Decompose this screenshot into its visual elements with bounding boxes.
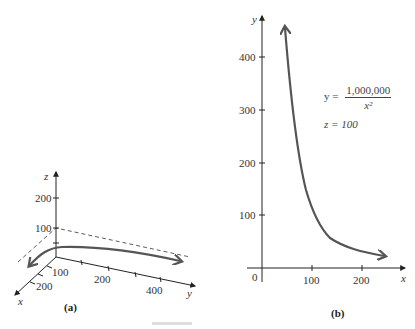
x-axis-label-3d: x <box>18 296 23 307</box>
x-axis-label: x <box>401 273 406 284</box>
caption-b: (b) <box>331 307 344 319</box>
x-tick-200: 200 <box>36 281 53 292</box>
curve-hyperbola <box>285 28 384 256</box>
equation-fraction: 1,000,000 x² <box>345 84 391 111</box>
y-tick-400: 400 <box>146 285 163 296</box>
y-tick-200-b: 200 <box>239 158 256 169</box>
equation-denominator: x² <box>345 98 391 111</box>
y-axis-3d <box>56 257 195 286</box>
caption-a: (a) <box>64 301 77 313</box>
y-tick-200: 200 <box>94 274 111 285</box>
x-tick-200-b: 200 <box>353 275 370 286</box>
origin-label: 0 <box>252 272 258 283</box>
y-tick-100-b: 100 <box>239 210 256 221</box>
z-axis-label: z <box>44 171 48 182</box>
y-axis-label: y <box>252 14 257 25</box>
equation-numerator: 1,000,000 <box>345 84 391 98</box>
condition-z: z = 100 <box>324 118 358 130</box>
panel-b-2d-plot <box>247 16 405 282</box>
y-tick-400-b: 400 <box>239 52 256 63</box>
z-tick-200: 200 <box>35 193 52 204</box>
figure-caption-cropped <box>152 322 192 325</box>
equation-lhs: y = <box>324 90 338 102</box>
x-tick-100: 100 <box>52 267 69 278</box>
z-tick-100: 100 <box>35 223 52 234</box>
y-axis-label-3d: y <box>187 288 192 299</box>
x-tick-100-b: 100 <box>303 275 320 286</box>
y-tick-300-b: 300 <box>239 105 256 116</box>
equation: y = 1,000,000 x² <box>324 84 391 111</box>
